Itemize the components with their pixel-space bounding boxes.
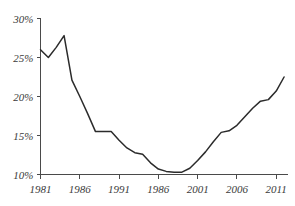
y-tick-label: 15% [13, 130, 33, 142]
y-axis-ticks [37, 19, 41, 175]
line-chart-plot: 10%15%20%25%30% 198119861991198620012006… [0, 0, 295, 206]
data-series-line [41, 36, 285, 173]
x-tick-label: 2011 [266, 183, 287, 195]
x-tick-label: 2006 [226, 183, 249, 195]
chart-container: 10%15%20%25%30% 198119861991198620012006… [0, 0, 295, 206]
x-axis-ticks [41, 175, 277, 179]
x-tick-label: 1986 [147, 183, 170, 195]
x-tick-label: 1991 [108, 183, 130, 195]
y-tick-label: 25% [13, 52, 33, 64]
y-tick-label: 10% [13, 169, 33, 181]
y-axis-tick-labels: 10%15%20%25%30% [12, 13, 33, 181]
y-tick-label: 20% [13, 91, 33, 103]
x-tick-label: 1981 [30, 183, 52, 195]
x-tick-label: 2001 [187, 183, 209, 195]
y-tick-label: 30% [12, 13, 33, 25]
x-axis-tick-labels: 1981198619911986200120062011 [30, 183, 287, 195]
x-tick-label: 1986 [69, 183, 92, 195]
